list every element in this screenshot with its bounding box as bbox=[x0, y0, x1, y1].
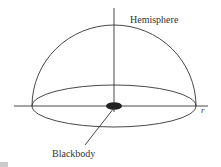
hemisphere-label: Hemisphere bbox=[130, 14, 179, 25]
blackbody-label: Blackbody bbox=[52, 148, 95, 159]
radius-label: r bbox=[201, 105, 205, 115]
hemisphere-diagram: Hemisphere r Blackbody bbox=[0, 0, 221, 167]
caption-fragment bbox=[0, 162, 8, 167]
